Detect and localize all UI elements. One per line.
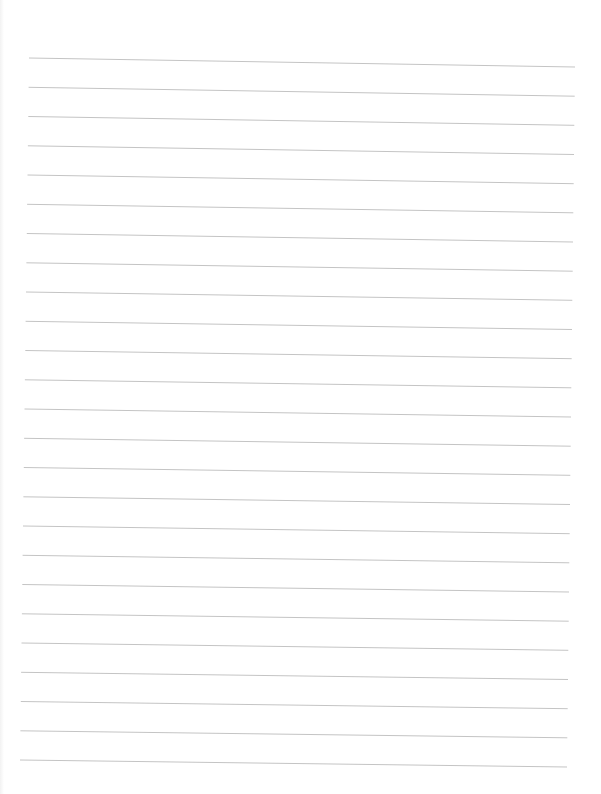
ruled-line (22, 614, 569, 621)
ruled-line (21, 672, 568, 679)
ruled-line (26, 321, 572, 329)
ruled-line (26, 263, 572, 271)
ruled-line (23, 526, 570, 534)
ruled-line (28, 175, 574, 184)
ruled-line (28, 117, 574, 126)
ruled-line (25, 409, 572, 417)
ruled-line (23, 555, 570, 563)
ruled-line (25, 380, 571, 388)
ruled-line (20, 731, 567, 738)
ruled-line (22, 643, 569, 650)
lined-paper-sheet (0, 0, 601, 794)
ruled-line (24, 468, 571, 476)
ruled-line (26, 292, 572, 300)
ruled-line (28, 146, 574, 155)
ruled-line (20, 760, 567, 767)
ruled-line (29, 87, 575, 96)
ruled-line (24, 438, 571, 446)
ruled-line (21, 702, 568, 709)
ruled-line (27, 234, 573, 243)
ruled-line (25, 351, 571, 359)
ruled-line (29, 58, 575, 67)
ruled-line (27, 204, 573, 213)
ruled-lines (0, 0, 601, 794)
ruled-line (23, 497, 570, 505)
ruled-line (22, 585, 569, 593)
